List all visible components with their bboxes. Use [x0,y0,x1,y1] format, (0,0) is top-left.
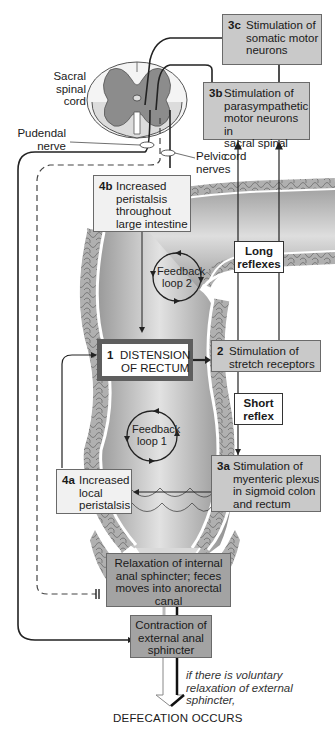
step-3c-box: 3c Stimulation of somatic motor neurons [222,14,322,65]
step-3a-number: 3a [217,460,230,473]
step-3b-text: Stimulation of parasympathetic motor neu… [224,87,309,162]
step-4b-number: 4b [99,180,112,193]
pudendal-nerve-marker [140,142,154,148]
feedback-loop-2-label: Feedback loop 2 [157,265,197,289]
pelvic-nerve-marker [161,150,175,156]
step-3b-box: 3b Stimulation of parasympathetic motor … [203,82,310,140]
step-3c-number: 3c [228,19,241,32]
voluntary-relaxation-note: if there is voluntary relaxation of exte… [186,669,293,707]
external-sphincter-text: Contraction of external anal sphincter [131,616,211,657]
label-pudendal-nerve: Pudendal nerve [10,127,66,152]
label-sacral-spinal-cord: Sacral spinal cord [28,70,86,108]
step-3c-text: Stimulation of somatic motor neurons [246,19,318,57]
step-1-text: DISTENSION OF RECTUM [120,349,190,375]
feedback-loop-1-label: Feedback loop 1 [132,423,172,447]
step-3b-number: 3b [209,87,222,100]
internal-sphincter-text: Relaxation of internal anal sphincter; f… [107,554,230,607]
step-4b-text: Increased peristalsis throughout large i… [116,180,188,230]
step-2-text: Stimulation of stretch receptors [229,345,315,370]
step-4a-number: 4a [62,474,75,487]
defecation-outcome: DEFECATION OCCURS [113,712,243,724]
step-2-number: 2 [217,345,223,358]
step-2-box: 2 Stimulation of stretch receptors [211,340,321,372]
step-3a-box: 3a Stimulation of myenteric plexus in si… [211,455,321,512]
step-4a-text: Increased local peristalsis [79,474,130,512]
short-reflex-tag: Short reflex [234,393,283,425]
step-4b-box: 4b Increased peristalsis throughout larg… [93,175,191,232]
step-4a-box: 4a Increased local peristalsis [56,469,132,514]
step-3a-text: Stimulation of myenteric plexus in sigmo… [233,460,319,510]
step-1-number: 1 [107,349,113,362]
spinal-cord-cross-section [87,62,187,138]
internal-sphincter-box: Relaxation of internal anal sphincter; f… [106,553,231,607]
external-sphincter-box: Contraction of external anal sphincter [130,615,212,658]
long-reflexes-tag: Long reflexes [234,241,284,273]
step-1-distension-box: 1 DISTENSION OF RECTUM [97,339,193,381]
